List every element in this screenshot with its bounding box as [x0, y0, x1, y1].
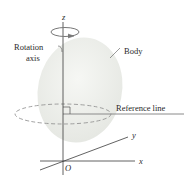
rotation-axis-label-line1: Rotation: [14, 42, 44, 52]
origin-label: O: [65, 163, 71, 173]
rotation-arrow-icon: [51, 28, 79, 37]
y-axis-label: y: [131, 130, 136, 140]
rotation-axis-label-line2: axis: [26, 53, 40, 63]
rigid-body: [28, 29, 132, 150]
y-axis: [40, 137, 128, 170]
rotation-diagram: z Rotation axis Body Reference line y x …: [0, 0, 196, 187]
body-label: Body: [124, 46, 143, 56]
reference-line-label: Reference line: [116, 103, 166, 113]
arrow-head-icon: [68, 34, 74, 38]
z-axis-label: z: [61, 12, 66, 22]
x-axis-label: x: [138, 156, 143, 166]
